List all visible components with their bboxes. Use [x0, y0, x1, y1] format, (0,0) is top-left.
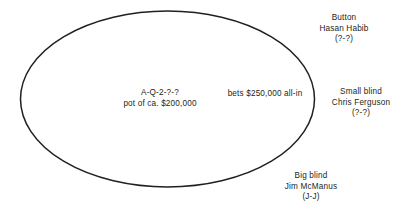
seat-position-big-blind: Big blind	[258, 171, 364, 182]
bet-action-label: bets $250,000 all-in	[222, 89, 308, 100]
seat-label-button: Button Hasan Habib (?-?)	[292, 13, 396, 45]
seat-player-chris-ferguson: Chris Ferguson	[320, 98, 402, 109]
seat-position-button: Button	[292, 13, 396, 24]
seat-hand-big-blind: (J-J)	[258, 192, 364, 203]
seat-hand-small-blind: (?-?)	[320, 108, 402, 119]
pot-amount-text: pot of ca. $200,000	[96, 99, 224, 110]
seat-player-hasan-habib: Hasan Habib	[292, 24, 396, 35]
board-cards-text: A-Q-2-?-?	[96, 88, 224, 99]
seat-label-big-blind: Big blind Jim McManus (J-J)	[258, 171, 364, 203]
pot-info-label: A-Q-2-?-? pot of ca. $200,000	[96, 88, 224, 109]
bet-action-text: bets $250,000 all-in	[222, 89, 308, 100]
seat-hand-button: (?-?)	[292, 34, 396, 45]
seat-position-small-blind: Small blind	[320, 87, 402, 98]
seat-player-jim-mcmanus: Jim McManus	[258, 182, 364, 193]
seat-label-small-blind: Small blind Chris Ferguson (?-?)	[320, 87, 402, 119]
poker-table-diagram: A-Q-2-?-? pot of ca. $200,000 bets $250,…	[0, 0, 406, 218]
